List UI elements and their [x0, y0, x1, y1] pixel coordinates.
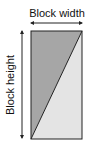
block-width-label: Block width: [29, 7, 85, 19]
height-arrow: [20, 30, 24, 139]
width-arrow: [30, 21, 83, 25]
block-diagram: Block width Block height: [0, 0, 92, 147]
block-height-label: Block height: [4, 55, 16, 115]
